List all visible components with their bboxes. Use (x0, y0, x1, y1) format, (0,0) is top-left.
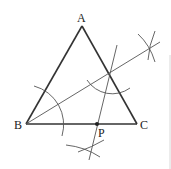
label-b: B (14, 118, 22, 132)
angle-bisector-line (26, 42, 160, 124)
label-c: C (140, 118, 148, 132)
geometry-diagram: A B C P (0, 0, 171, 169)
arc-centered-b (34, 86, 64, 136)
arc-middle (87, 80, 130, 94)
arc-lower-1 (66, 145, 100, 157)
side-ab (26, 26, 82, 124)
label-p: P (98, 126, 105, 140)
label-a: A (77, 11, 86, 25)
